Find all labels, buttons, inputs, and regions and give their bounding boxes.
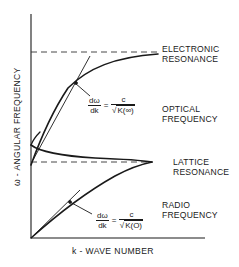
label-line: RESONANCE — [162, 54, 219, 64]
derivative-fraction: dω dk — [96, 211, 109, 230]
numerator: dω — [88, 96, 101, 106]
rhs-fraction: c √K(O) — [119, 210, 143, 230]
optical-slope-formula: dω dk = c √K(∞) — [88, 95, 135, 115]
denominator: dk — [90, 106, 98, 115]
label-line: LATTICE — [173, 157, 229, 167]
label-line: OPTICAL — [162, 104, 218, 114]
label-line: RESONANCE — [173, 167, 229, 177]
equals-sign: = — [104, 101, 109, 110]
equals-sign: = — [112, 216, 117, 225]
rhs-denominator: K(∞) — [116, 105, 134, 115]
radio-tangent-line — [31, 190, 80, 238]
electronic-resonance-label: ELECTRONIC RESONANCE — [162, 44, 219, 64]
denominator: dk — [98, 221, 106, 230]
rhs-numerator: c — [111, 95, 135, 105]
x-axis-label: k - WAVE NUMBER — [72, 246, 154, 256]
radio-frequency-label: RADIO FREQUENCY — [162, 200, 218, 220]
lattice-resonance-label: LATTICE RESONANCE — [173, 157, 229, 177]
intermediate-branch-curve — [31, 145, 152, 162]
tangents — [31, 56, 90, 238]
rhs-denominator: K(O) — [124, 220, 143, 230]
optical-frequency-label: OPTICAL FREQUENCY — [162, 104, 218, 124]
label-line: RADIO — [162, 200, 218, 210]
numerator: dω — [96, 211, 109, 221]
rhs-fraction: c √K(∞) — [111, 95, 135, 115]
radio-leader — [70, 202, 92, 214]
sqrt-icon: √K(O) — [120, 220, 143, 230]
y-axis-label: ω - ANGULAR FREQUENCY — [12, 67, 22, 186]
optical-tangent-point — [75, 82, 78, 85]
sqrt-icon: √K(∞) — [112, 105, 135, 115]
label-line: ELECTRONIC — [162, 44, 219, 54]
rhs-numerator: c — [119, 210, 143, 220]
optical-tangent-line — [33, 56, 90, 160]
radio-tangent-point — [69, 201, 72, 204]
label-line: FREQUENCY — [162, 114, 218, 124]
derivative-fraction: dω dk — [88, 96, 101, 115]
label-line: FREQUENCY — [162, 210, 218, 220]
radio-slope-formula: dω dk = c √K(O) — [96, 210, 143, 230]
